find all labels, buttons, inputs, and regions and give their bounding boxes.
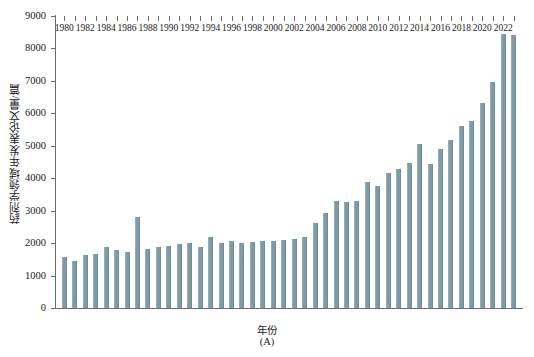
y-tick: 8000: [51, 48, 56, 49]
x-tick: [357, 16, 358, 21]
y-tick-label: 4000: [25, 171, 46, 184]
bar: [239, 243, 244, 308]
bar: [62, 257, 67, 308]
bar: [187, 243, 192, 308]
x-tick-label: 1988: [138, 23, 157, 34]
y-tick: 9000: [51, 16, 56, 17]
bar: [156, 247, 161, 308]
x-tick-label: 2018: [452, 23, 471, 34]
bar: [145, 249, 150, 308]
x-axis-label: 年份: [0, 322, 534, 337]
bar: [271, 241, 276, 308]
x-tick: [461, 16, 462, 21]
x-tick: [430, 16, 431, 21]
x-tick-label: 2010: [368, 23, 387, 34]
bar: [511, 35, 516, 309]
bar: [344, 202, 349, 308]
y-tick: 1000: [51, 276, 56, 277]
bar: [448, 140, 453, 308]
x-tick-label: 2022: [494, 23, 513, 34]
bar: [177, 244, 182, 308]
y-tick: 5000: [51, 146, 56, 147]
bar: [365, 182, 370, 308]
bar: [490, 82, 495, 308]
x-tick-label: 1996: [222, 23, 241, 34]
y-tick-label: 1000: [25, 269, 46, 282]
bar: [72, 261, 77, 308]
y-tick: 7000: [51, 81, 56, 82]
bar: [135, 217, 140, 308]
y-tick: 3000: [51, 211, 56, 212]
x-tick: [158, 16, 159, 21]
x-tick: [346, 16, 347, 21]
x-tick-label: 1980: [55, 23, 74, 34]
bar: [260, 241, 265, 308]
x-tick: [420, 16, 421, 21]
y-tick-label: 9000: [25, 9, 46, 22]
y-tick-label: 8000: [25, 41, 46, 54]
bar: [229, 241, 234, 308]
y-tick-label: 2000: [25, 236, 46, 249]
x-tick: [399, 16, 400, 21]
y-tick: 0: [51, 308, 56, 309]
x-tick: [64, 16, 65, 21]
x-tick: [221, 16, 222, 21]
bar: [459, 126, 464, 308]
x-tick-label: 1982: [76, 23, 95, 34]
x-tick: [514, 16, 515, 21]
x-tick-label: 2002: [285, 23, 304, 34]
x-tick-label: 2014: [410, 23, 429, 34]
bar: [281, 240, 286, 308]
x-tick: [294, 16, 295, 21]
x-tick-label: 1986: [118, 23, 137, 34]
bar: [386, 173, 391, 308]
x-tick: [273, 16, 274, 21]
x-tick: [148, 16, 149, 21]
bar: [208, 237, 213, 308]
x-tick: [451, 16, 452, 21]
bar: [104, 247, 109, 308]
x-tick: [493, 16, 494, 21]
y-tick-label: 7000: [25, 74, 46, 87]
x-tick-label: 1994: [201, 23, 220, 34]
x-tick: [96, 16, 97, 21]
bar: [125, 252, 130, 308]
y-tick-label: 6000: [25, 106, 46, 119]
x-tick: [367, 16, 368, 21]
y-tick-label: 3000: [25, 204, 46, 217]
x-tick: [75, 16, 76, 21]
x-tick: [503, 16, 504, 21]
y-axis-label-text: 药剂学领域年发表论文量/篇: [7, 84, 23, 224]
x-tick-label: 2016: [431, 23, 450, 34]
x-tick: [441, 16, 442, 21]
x-tick-label: 1998: [243, 23, 262, 34]
bar: [469, 121, 474, 308]
x-tick: [388, 16, 389, 21]
y-tick: 6000: [51, 113, 56, 114]
x-tick-label: 1990: [159, 23, 178, 34]
x-tick: [263, 16, 264, 21]
x-tick: [232, 16, 233, 21]
x-tick: [482, 16, 483, 21]
x-tick: [472, 16, 473, 21]
x-tick-label: 2000: [264, 23, 283, 34]
x-tick: [242, 16, 243, 21]
y-tick: 2000: [51, 243, 56, 244]
bar: [480, 103, 485, 308]
x-tick-label: 1984: [97, 23, 116, 34]
x-tick-label: 2008: [347, 23, 366, 34]
x-tick: [305, 16, 306, 21]
x-tick: [200, 16, 201, 21]
bar: [313, 223, 318, 308]
bar: [428, 164, 433, 308]
x-tick-label: 2006: [327, 23, 346, 34]
bar: [93, 254, 98, 308]
y-axis-label: 药剂学领域年发表论文量/篇: [6, 0, 24, 308]
bar: [198, 247, 203, 308]
x-tick: [378, 16, 379, 21]
x-tick: [326, 16, 327, 21]
x-tick: [85, 16, 86, 21]
x-tick: [315, 16, 316, 21]
y-tick: 4000: [51, 178, 56, 179]
bar: [407, 163, 412, 308]
